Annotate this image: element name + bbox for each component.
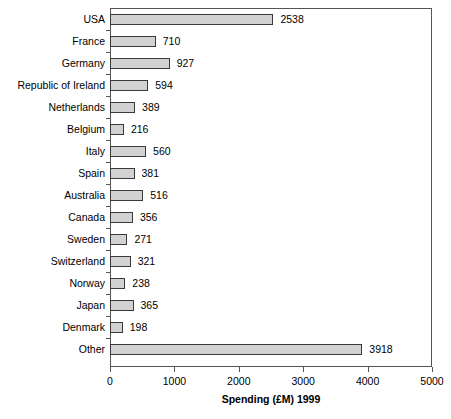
bar bbox=[110, 58, 170, 69]
category-label: Switzerland bbox=[0, 250, 105, 272]
bar-value-label: 516 bbox=[150, 184, 168, 206]
bar-value-label: 3918 bbox=[369, 338, 392, 360]
bar-row: France710 bbox=[0, 30, 451, 52]
y-axis-tick bbox=[106, 338, 110, 339]
x-axis-tick bbox=[174, 367, 175, 372]
x-axis-tick bbox=[303, 367, 304, 372]
bar-value-label: 381 bbox=[142, 162, 160, 184]
y-axis-tick bbox=[106, 294, 110, 295]
bar bbox=[110, 124, 124, 135]
bar bbox=[110, 234, 127, 245]
x-axis-tick-label: 1000 bbox=[144, 374, 204, 388]
y-axis-tick bbox=[106, 228, 110, 229]
bar bbox=[110, 80, 148, 91]
category-label: Canada bbox=[0, 206, 105, 228]
bar-row: Sweden271 bbox=[0, 228, 451, 250]
category-label: Belgium bbox=[0, 118, 105, 140]
x-axis-tick bbox=[239, 367, 240, 372]
bar-value-label: 594 bbox=[155, 74, 173, 96]
bar-row: Australia516 bbox=[0, 184, 451, 206]
bar-value-label: 198 bbox=[130, 316, 148, 338]
bar bbox=[110, 168, 135, 179]
y-axis-tick bbox=[106, 162, 110, 163]
bar-row: Spain381 bbox=[0, 162, 451, 184]
bar-value-label: 2538 bbox=[280, 8, 303, 30]
bar-value-label: 710 bbox=[163, 30, 181, 52]
category-label: Denmark bbox=[0, 316, 105, 338]
category-label: Other bbox=[0, 338, 105, 360]
x-axis-tick bbox=[368, 367, 369, 372]
bar-row: Japan365 bbox=[0, 294, 451, 316]
bar bbox=[110, 36, 156, 47]
category-label: Italy bbox=[0, 140, 105, 162]
bar-row: Belgium216 bbox=[0, 118, 451, 140]
y-axis-tick bbox=[106, 206, 110, 207]
bar bbox=[110, 278, 125, 289]
y-axis-tick bbox=[106, 272, 110, 273]
bar bbox=[110, 102, 135, 113]
bar-row: Republic of Ireland594 bbox=[0, 74, 451, 96]
category-label: France bbox=[0, 30, 105, 52]
bar bbox=[110, 344, 362, 355]
y-axis-tick bbox=[106, 52, 110, 53]
bar-row: Other3918 bbox=[0, 338, 451, 360]
bar-row: Norway238 bbox=[0, 272, 451, 294]
bar-row: Netherlands389 bbox=[0, 96, 451, 118]
bar-value-label: 560 bbox=[153, 140, 171, 162]
x-axis-tick-label: 5000 bbox=[402, 374, 451, 388]
bar-value-label: 238 bbox=[132, 272, 150, 294]
bar-row: Switzerland321 bbox=[0, 250, 451, 272]
y-axis-tick bbox=[106, 74, 110, 75]
bar-row: Germany927 bbox=[0, 52, 451, 74]
bar bbox=[110, 190, 143, 201]
bar-row: Denmark198 bbox=[0, 316, 451, 338]
bar-value-label: 321 bbox=[138, 250, 156, 272]
category-label: Japan bbox=[0, 294, 105, 316]
x-axis-tick bbox=[110, 367, 111, 372]
y-axis-tick bbox=[106, 316, 110, 317]
x-axis-tick-label: 2000 bbox=[209, 374, 269, 388]
y-axis-tick bbox=[106, 118, 110, 119]
y-axis-tick bbox=[106, 184, 110, 185]
category-label: Sweden bbox=[0, 228, 105, 250]
bar-value-label: 356 bbox=[140, 206, 158, 228]
y-axis-tick bbox=[106, 96, 110, 97]
bar bbox=[110, 300, 134, 311]
x-axis-title: Spending (£M) 1999 bbox=[110, 393, 432, 405]
bar-value-label: 271 bbox=[134, 228, 152, 250]
category-label: Spain bbox=[0, 162, 105, 184]
bar-row: Italy560 bbox=[0, 140, 451, 162]
x-axis-tick bbox=[432, 367, 433, 372]
bar bbox=[110, 146, 146, 157]
x-axis-tick-label: 3000 bbox=[273, 374, 333, 388]
bar bbox=[110, 14, 273, 25]
category-label: Norway bbox=[0, 272, 105, 294]
category-label: Australia bbox=[0, 184, 105, 206]
bar bbox=[110, 212, 133, 223]
bar bbox=[110, 322, 123, 333]
y-axis-tick bbox=[106, 250, 110, 251]
y-axis-tick bbox=[106, 30, 110, 31]
category-label: Republic of Ireland bbox=[0, 74, 105, 96]
bar-value-label: 389 bbox=[142, 96, 160, 118]
category-label: USA bbox=[0, 8, 105, 30]
x-axis-tick-label: 4000 bbox=[338, 374, 398, 388]
x-axis-tick-label: 0 bbox=[80, 374, 140, 388]
bar-value-label: 365 bbox=[141, 294, 159, 316]
category-label: Netherlands bbox=[0, 96, 105, 118]
bar-value-label: 216 bbox=[131, 118, 149, 140]
bar bbox=[110, 256, 131, 267]
bar-row: USA2538 bbox=[0, 8, 451, 30]
bar-row: Canada356 bbox=[0, 206, 451, 228]
y-axis-tick bbox=[106, 140, 110, 141]
bar-value-label: 927 bbox=[177, 52, 195, 74]
bar-chart: USA2538France710Germany927Republic of Ir… bbox=[0, 0, 451, 419]
category-label: Germany bbox=[0, 52, 105, 74]
